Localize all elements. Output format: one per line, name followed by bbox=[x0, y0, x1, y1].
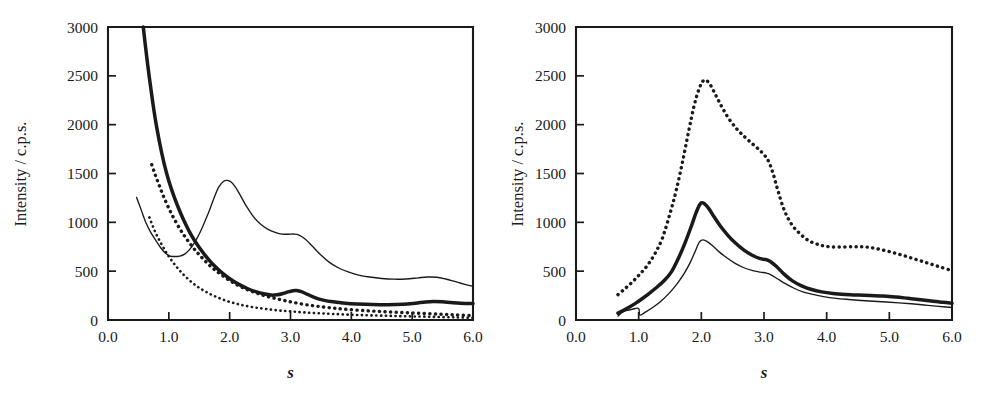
figure-root: 050010001500200025003000 0.01.02.03.04.0… bbox=[0, 0, 995, 395]
chart-panel-left: 050010001500200025003000 0.01.02.03.04.0… bbox=[0, 0, 497, 395]
curve-coarse-dotted-curve bbox=[152, 165, 473, 316]
axes-group-right bbox=[576, 27, 952, 320]
x-tick-label: 4.0 bbox=[342, 328, 362, 345]
x-tick-label: 2.0 bbox=[692, 328, 712, 345]
y-tick-label: 1500 bbox=[67, 165, 98, 182]
y-axis-title: Intensity / c.p.s. bbox=[11, 122, 30, 227]
x-tick-label: 4.0 bbox=[817, 328, 837, 345]
plot-frame bbox=[576, 27, 952, 320]
x-axis-title: s bbox=[286, 363, 294, 382]
plot-frame bbox=[108, 27, 473, 320]
x-tick-label: 5.0 bbox=[402, 328, 422, 345]
x-tick-label: 3.0 bbox=[754, 328, 774, 345]
axes-group-left bbox=[108, 27, 473, 320]
chart-svg-right: 050010001500200025003000 0.01.02.03.04.0… bbox=[497, 0, 995, 395]
y-tick-label: 2500 bbox=[67, 67, 98, 84]
x-axis-tick-labels: 0.01.02.03.04.05.06.0 bbox=[98, 328, 483, 345]
x-tick-label: 1.0 bbox=[629, 328, 649, 345]
x-tick-label: 5.0 bbox=[880, 328, 900, 345]
x-tick-label: 6.0 bbox=[463, 328, 483, 345]
curves-group bbox=[618, 80, 952, 316]
y-tick-label: 0 bbox=[558, 312, 566, 329]
curve-thick-solid-curve bbox=[618, 203, 952, 314]
y-tick-label: 3000 bbox=[67, 19, 98, 36]
y-axis-ticks bbox=[108, 76, 116, 271]
x-tick-label: 0.0 bbox=[98, 328, 118, 345]
x-tick-label: 3.0 bbox=[281, 328, 301, 345]
x-axis-ticks bbox=[639, 312, 890, 320]
y-tick-label: 2500 bbox=[535, 67, 566, 84]
y-tick-label: 1000 bbox=[67, 214, 98, 231]
y-tick-label: 0 bbox=[90, 312, 98, 329]
y-axis-tick-labels: 050010001500200025003000 bbox=[67, 19, 98, 329]
y-axis-ticks bbox=[576, 76, 584, 271]
y-tick-label: 2000 bbox=[67, 116, 98, 133]
x-tick-label: 0.0 bbox=[566, 328, 586, 345]
y-tick-label: 3000 bbox=[535, 19, 566, 36]
x-tick-label: 2.0 bbox=[220, 328, 240, 345]
y-tick-label: 2000 bbox=[535, 116, 566, 133]
x-tick-label: 6.0 bbox=[942, 328, 962, 345]
x-axis-title: s bbox=[760, 363, 768, 382]
y-axis-title: Intensity / c.p.s. bbox=[508, 122, 527, 227]
curves-group bbox=[137, 27, 473, 318]
y-tick-label: 1000 bbox=[535, 214, 566, 231]
chart-svg-left: 050010001500200025003000 0.01.02.03.04.0… bbox=[0, 0, 497, 395]
chart-panel-right: 050010001500200025003000 0.01.02.03.04.0… bbox=[497, 0, 995, 395]
x-tick-label: 1.0 bbox=[159, 328, 179, 345]
y-tick-label: 500 bbox=[75, 263, 99, 280]
x-axis-tick-labels: 0.01.02.03.04.05.06.0 bbox=[566, 328, 962, 345]
y-tick-label: 1500 bbox=[535, 165, 566, 182]
y-axis-tick-labels: 050010001500200025003000 bbox=[535, 19, 566, 329]
curve-dotted-curve bbox=[618, 80, 952, 295]
y-tick-label: 500 bbox=[543, 263, 567, 280]
curve-thin-solid-curve bbox=[137, 180, 473, 286]
curve-thick-solid-curve bbox=[143, 27, 473, 305]
